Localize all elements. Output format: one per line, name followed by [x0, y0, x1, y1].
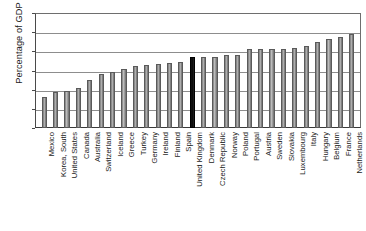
bar-slot: [289, 13, 300, 128]
bar: [304, 46, 309, 128]
bar: [156, 64, 161, 128]
bar: [338, 37, 343, 128]
bar: [178, 62, 183, 128]
bar: [64, 91, 69, 128]
x-label-slot: Finland: [164, 128, 175, 228]
x-label-slot: Greece: [118, 128, 129, 228]
x-label-slot: United Kingdom: [187, 128, 198, 228]
bar-slot: [266, 13, 277, 128]
bar-slot: [312, 13, 323, 128]
x-label-slot: Hungary: [312, 128, 323, 228]
bar-slot: [39, 13, 50, 128]
x-label-slot: Czech Republic: [209, 128, 220, 228]
bar: [201, 57, 206, 128]
bar-slot: [323, 13, 334, 128]
bar-slot: [209, 13, 220, 128]
x-label-slot: Spain: [175, 128, 186, 228]
bar-slot: [278, 13, 289, 128]
bar-slot: [50, 13, 61, 128]
x-label-slot: Iceland: [107, 128, 118, 228]
x-label-slot: Norway: [221, 128, 232, 228]
bar-slot: [141, 13, 152, 128]
bar: [292, 48, 297, 128]
x-label-slot: Luxembourg: [289, 128, 300, 228]
bar: [247, 49, 252, 128]
x-label-slot: Canada: [73, 128, 84, 228]
x-label-slot: Portugal: [244, 128, 255, 228]
bar-slot: [164, 13, 175, 128]
bar-slot: [255, 13, 266, 128]
bar: [133, 66, 138, 128]
bar-slot: [335, 13, 346, 128]
bar: [190, 57, 195, 128]
bar: [42, 97, 47, 128]
bar: [258, 49, 263, 128]
bar-slot: [152, 13, 163, 128]
bar: [144, 65, 149, 128]
bars-layer: [35, 13, 361, 128]
y-axis-title: Percentage of GDP: [14, 0, 24, 98]
bar: [349, 34, 354, 128]
x-label-slot: Germany: [141, 128, 152, 228]
x-label-slot: Turkey: [130, 128, 141, 228]
x-label-slot: Poland: [232, 128, 243, 228]
bar: [110, 72, 115, 128]
x-label-slot: Netherlands: [346, 128, 357, 228]
bar: [76, 88, 81, 128]
x-label-slot: Slovakia: [278, 128, 289, 228]
bar: [212, 57, 217, 128]
bar-slot: [118, 13, 129, 128]
bar: [235, 55, 240, 128]
bar-slot: [61, 13, 72, 128]
x-label-slot: Mexico: [39, 128, 50, 228]
bar-chart-figure: Percentage of GDP 0102030405060 MexicoKo…: [0, 0, 366, 231]
bar-slot: [221, 13, 232, 128]
x-label-slot: Korea, South: [50, 128, 61, 228]
bar-slot: [187, 13, 198, 128]
x-label-slot: United States: [61, 128, 72, 228]
bar-slot: [198, 13, 209, 128]
bar: [87, 80, 92, 128]
x-label-slot: Sweden: [266, 128, 277, 228]
bar-slot: [346, 13, 357, 128]
bar-slot: [175, 13, 186, 128]
x-label-slot: Austria: [255, 128, 266, 228]
bar: [99, 74, 104, 128]
bar-slot: [107, 13, 118, 128]
bar-slot: [244, 13, 255, 128]
x-label-slot: France: [335, 128, 346, 228]
x-tick-label: Netherlands: [355, 132, 364, 174]
x-axis-labels: MexicoKorea, SouthUnited StatesCanadaAus…: [35, 128, 361, 228]
bar-slot: [232, 13, 243, 128]
bar: [224, 55, 229, 128]
bar: [167, 63, 172, 128]
bar: [315, 42, 320, 128]
x-label-slot: Switzerland: [95, 128, 106, 228]
x-label-slot: Ireland: [152, 128, 163, 228]
x-label-slot: Italy: [300, 128, 311, 228]
bar: [281, 49, 286, 128]
bar-slot: [84, 13, 95, 128]
x-label-slot: Australia: [84, 128, 95, 228]
x-label-slot: Denmark: [198, 128, 209, 228]
bar: [53, 92, 58, 128]
bar-slot: [130, 13, 141, 128]
x-label-slot: Belgium: [323, 128, 334, 228]
bar-slot: [73, 13, 84, 128]
bar: [326, 39, 331, 128]
bar-slot: [300, 13, 311, 128]
bar: [121, 69, 126, 128]
bar: [269, 49, 274, 128]
bar-slot: [95, 13, 106, 128]
